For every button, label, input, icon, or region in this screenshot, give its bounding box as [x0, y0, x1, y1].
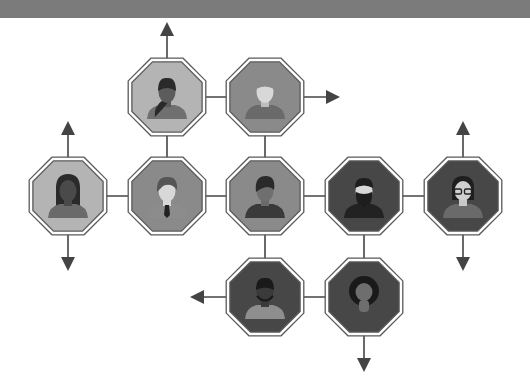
node-n7[interactable]	[424, 157, 502, 235]
node-n9[interactable]	[325, 258, 403, 336]
node-n4[interactable]	[128, 157, 206, 235]
node-n1[interactable]	[128, 58, 206, 136]
node-n3[interactable]	[29, 157, 107, 235]
node-n6[interactable]	[325, 157, 403, 235]
node-n2[interactable]	[226, 58, 304, 136]
node-n8[interactable]	[226, 258, 304, 336]
nodes-layer	[29, 58, 502, 336]
network-diagram	[0, 0, 530, 389]
node-n5[interactable]	[226, 157, 304, 235]
